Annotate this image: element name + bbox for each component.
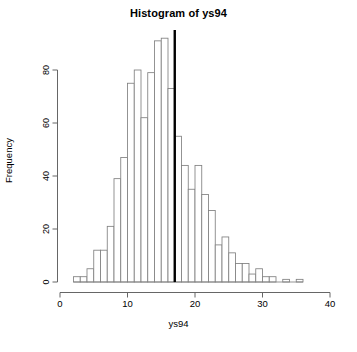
histogram-bar <box>161 38 168 282</box>
histogram-bar <box>107 226 114 282</box>
y-axis-label: Frequency <box>0 0 14 352</box>
histogram-bar <box>195 165 202 282</box>
plot-canvas: 020406080 010203040 <box>0 0 357 352</box>
histogram-plot: Histogram of ys94 Frequency ys94 0204060… <box>0 0 357 352</box>
y-axis-tick-label: 80 <box>41 65 51 75</box>
y-axis-label-text: Frequency <box>3 131 14 191</box>
histogram-bar <box>263 277 270 282</box>
histogram-bar <box>215 245 222 282</box>
histogram-bar <box>80 277 87 282</box>
histogram-bar <box>236 263 243 282</box>
histogram-bar <box>74 277 81 282</box>
x-axis-tick-label: 20 <box>190 298 201 309</box>
y-axis-tick-label: 20 <box>41 224 51 234</box>
histogram-bar <box>134 70 141 282</box>
x-axis: 010203040 <box>57 293 335 310</box>
x-axis-tick-label: 40 <box>325 298 336 309</box>
histogram-bar <box>155 41 162 282</box>
histogram-bar <box>202 195 209 282</box>
x-axis-tick-label: 10 <box>122 298 133 309</box>
histogram-bar <box>148 73 155 282</box>
x-axis-tick-label: 0 <box>57 298 62 309</box>
y-axis-tick-label: 40 <box>41 171 51 181</box>
histogram-bar <box>182 165 189 282</box>
histogram-bar <box>121 157 128 282</box>
histogram-bar <box>188 189 195 282</box>
page-title: Histogram of ys94 <box>0 7 357 19</box>
histogram-bar <box>249 274 256 282</box>
histogram-bar <box>94 250 101 282</box>
y-axis-tick-label: 0 <box>41 279 51 284</box>
histogram-bar <box>222 237 229 282</box>
histogram-bar <box>209 210 216 282</box>
y-axis: 020406080 <box>41 65 58 285</box>
histogram-bar <box>256 269 263 282</box>
histogram-bar <box>87 269 94 282</box>
histogram-bar <box>101 250 108 282</box>
histogram-bar <box>269 277 276 282</box>
histogram-bar <box>128 83 135 282</box>
histogram-bar <box>114 179 121 282</box>
x-axis-tick-label: 30 <box>257 298 268 309</box>
y-axis-tick-label: 60 <box>41 118 51 128</box>
histogram-bars <box>74 38 304 282</box>
histogram-bar <box>242 263 249 282</box>
x-axis-label: ys94 <box>0 318 357 329</box>
histogram-bar <box>141 118 148 282</box>
histogram-bar <box>229 253 236 282</box>
